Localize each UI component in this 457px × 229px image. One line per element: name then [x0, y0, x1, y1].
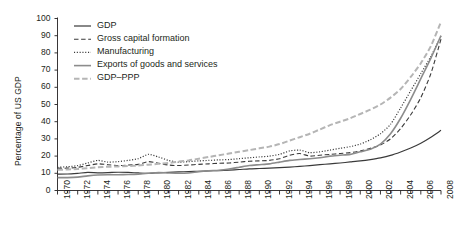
y-axis-tick-label: 80	[27, 47, 51, 57]
x-axis-tick-label: 2008	[445, 180, 455, 199]
legend-label-3: Exports of goods and services	[97, 59, 218, 69]
legend-label-4: GDP–PPP	[97, 72, 140, 82]
y-axis-title: Percentage of US GDP	[13, 76, 23, 166]
x-axis-tick-label: 1982	[183, 180, 193, 199]
x-axis-tick-label: 1996	[324, 180, 334, 199]
x-axis-tick-label: 1990	[263, 180, 273, 199]
y-axis-tick-label: 20	[27, 150, 51, 160]
x-axis-tick-label: 2000	[364, 180, 374, 199]
y-axis-tick-label: 90	[27, 30, 51, 40]
x-axis-tick-label: 1984	[203, 180, 213, 199]
x-axis-tick-label: 2004	[405, 180, 415, 199]
y-axis-tick-label: 70	[27, 64, 51, 74]
y-axis-tick-label: 10	[27, 167, 51, 177]
y-axis-tick-label: 30	[27, 133, 51, 143]
legend-label-2: Manufacturing	[97, 46, 154, 56]
x-axis-tick-label: 1992	[284, 180, 294, 199]
y-axis-tick-label: 60	[27, 81, 51, 91]
y-axis-tick-label: 50	[27, 99, 51, 109]
y-axis-tick-label: 100	[27, 13, 51, 23]
series-line-exports-of-goods-and-services	[58, 36, 442, 178]
x-axis-tick-label: 1972	[82, 180, 92, 199]
x-axis-tick-label: 1978	[142, 180, 152, 199]
legend-label-0: GDP	[97, 20, 117, 30]
chart-container: Percentage of US GDP 0102030405060708090…	[0, 0, 457, 229]
series-line-gdp-ppp	[58, 22, 442, 170]
x-axis-tick-label: 1986	[223, 180, 233, 199]
x-axis-tick-label: 2006	[425, 180, 435, 199]
legend-label-1: Gross capital formation	[97, 33, 190, 43]
x-axis-tick-label: 1976	[122, 180, 132, 199]
x-axis-tick-label: 1980	[162, 180, 172, 199]
y-axis-tick-label: 40	[27, 116, 51, 126]
y-axis-tick-label: 0	[27, 185, 51, 195]
x-axis-tick-label: 1970	[62, 180, 72, 199]
series-line-gdp	[58, 130, 442, 174]
x-axis-tick-label: 1974	[102, 180, 112, 199]
x-axis-tick-label: 1988	[243, 180, 253, 199]
x-axis-tick-label: 1998	[344, 180, 354, 199]
x-axis-tick-label: 1994	[304, 180, 314, 199]
x-axis-tick-label: 2002	[384, 180, 394, 199]
